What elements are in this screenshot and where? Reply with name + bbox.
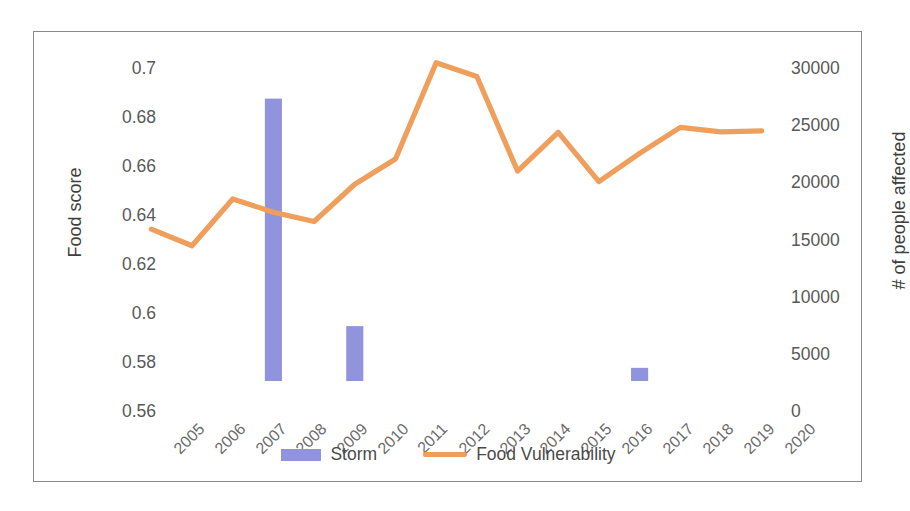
legend-label-storm: Storm (330, 444, 377, 465)
y-axis-right-tick-label: 25000 (791, 117, 840, 135)
plot-area (131, 38, 782, 381)
y-axis-right-title: # of people affected (889, 101, 910, 321)
y-axis-right-tick-label: 20000 (791, 174, 840, 192)
storm-bars-group (265, 99, 648, 381)
legend-item-food-vulnerability[interactable]: Food Vulnerability (423, 444, 615, 465)
y-axis-right-tick-label: 5000 (791, 346, 830, 364)
food-vulnerability-line[interactable] (151, 63, 761, 246)
legend-item-storm[interactable]: Storm (281, 444, 377, 465)
legend-bar-swatch-icon (281, 449, 321, 461)
y-axis-right-tick-label: 30000 (791, 60, 840, 78)
y-axis-right-tick-label: 0 (791, 403, 801, 421)
legend-line-swatch-icon (423, 452, 467, 457)
plot-svg (131, 38, 782, 381)
storm-bar[interactable] (346, 326, 363, 381)
storm-bar[interactable] (631, 368, 648, 381)
chart-frame: 0.560.580.60.620.640.660.680.7 Food scor… (33, 31, 862, 482)
y-axis-right-tick-label: 10000 (791, 289, 840, 307)
y-axis-right-ticks: 050001000015000200002500030000 (791, 69, 881, 412)
y-axis-left-title: Food score (65, 123, 86, 303)
chart-legend: Storm Food Vulnerability (34, 444, 863, 465)
legend-label-food-vulnerability: Food Vulnerability (476, 444, 615, 465)
y-axis-right-tick-label: 15000 (791, 232, 840, 250)
food-vulnerability-line-group (151, 63, 761, 246)
storm-bar[interactable] (265, 99, 282, 381)
